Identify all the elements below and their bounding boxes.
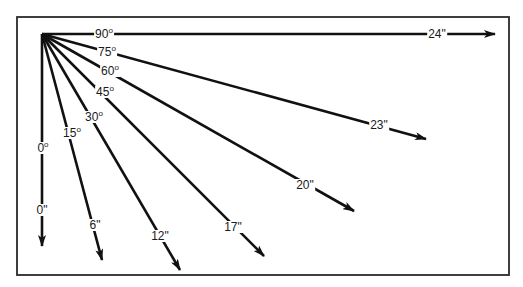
degree-symbol: o xyxy=(98,109,102,118)
ray-30-angle-label: 30o xyxy=(84,111,104,123)
ray-15-distance-label: 6" xyxy=(89,219,102,231)
ray-60-angle-label: 60o xyxy=(100,65,120,77)
degree-symbol: o xyxy=(109,84,113,93)
ray-30-distance-label: 12" xyxy=(150,230,170,242)
degree-symbol: o xyxy=(44,140,48,149)
angle-value: 15 xyxy=(63,126,76,140)
ray-90-angle-label: 90o xyxy=(94,28,114,40)
degree-symbol: o xyxy=(114,63,118,72)
ray-75-distance-label: 23" xyxy=(369,119,389,131)
ray-75-angle-label: 75o xyxy=(97,46,117,58)
ray-45-distance-label: 17" xyxy=(223,221,243,233)
angle-value: 45 xyxy=(96,85,109,99)
angle-value: 75 xyxy=(98,45,111,59)
diagram-canvas: 0o0"15o6"30o12"45o17"60o20"75o23"90o24" xyxy=(0,0,523,287)
ray-60-distance-label: 20" xyxy=(295,179,315,191)
ray-0-distance-label: 0" xyxy=(36,204,49,216)
diagram-frame xyxy=(17,17,509,275)
diagram-svg xyxy=(0,0,523,287)
degree-symbol: o xyxy=(76,125,80,134)
angle-value: 90 xyxy=(95,27,108,41)
angle-value: 30 xyxy=(85,110,98,124)
ray-90-distance-label: 24" xyxy=(427,28,447,40)
ray-45-angle-label: 45o xyxy=(95,86,115,98)
degree-symbol: o xyxy=(108,26,112,35)
angle-value: 0 xyxy=(37,141,44,155)
degree-symbol: o xyxy=(111,44,115,53)
angle-value: 60 xyxy=(101,64,114,78)
ray-15-angle-label: 15o xyxy=(62,127,82,139)
ray-0-angle-label: 0o xyxy=(36,142,49,154)
